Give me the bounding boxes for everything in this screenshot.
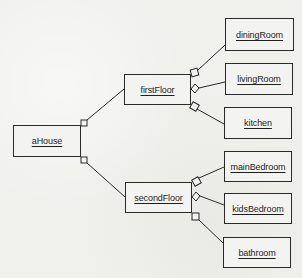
link-firstfloor-livingroom (191, 82, 225, 93)
square-marker-icon (190, 68, 199, 77)
diagram-canvas: aHouse firstFloor secondFloor diningRoom… (0, 0, 302, 278)
node-kidsbedroom[interactable]: kidsBedroom (224, 193, 292, 224)
node-label: livingRoom (237, 74, 281, 84)
square-marker-icon (81, 120, 87, 126)
node-label: kidsBedroom (232, 204, 283, 214)
node-label: firstFloor (140, 85, 174, 95)
node-label: aHouse (32, 136, 62, 146)
node-bathroom[interactable]: bathroom (223, 237, 291, 268)
node-label: mainBedroom (231, 162, 286, 172)
node-label: diningRoom (236, 30, 283, 40)
square-marker-icon (192, 213, 199, 220)
node-label: kitchen (244, 118, 272, 128)
node-label: bathroom (238, 248, 275, 258)
node-livingroom[interactable]: livingRoom (225, 63, 293, 95)
square-marker-icon (81, 157, 87, 163)
link-ahouse-secondfloor (81, 157, 125, 197)
node-secondfloor[interactable]: secondFloor (125, 182, 192, 213)
link-firstfloor-kitchen (190, 102, 224, 124)
link-secondfloor-bathroom (192, 213, 223, 243)
node-kitchen[interactable]: kitchen (224, 107, 292, 139)
node-label: secondFloor (134, 193, 182, 203)
diamond-marker-icon (191, 84, 199, 93)
node-firstfloor[interactable]: firstFloor (124, 74, 191, 105)
diamond-marker-icon (192, 192, 200, 201)
node-diningroom[interactable]: diningRoom (225, 18, 294, 51)
link-secondfloor-mainbedroom (192, 167, 224, 186)
link-secondfloor-kidsbedroom (192, 192, 224, 205)
link-ahouse-firstfloor (81, 89, 124, 126)
link-firstfloor-diningroom (190, 45, 225, 77)
node-ahouse[interactable]: aHouse (13, 125, 81, 157)
node-mainbedroom[interactable]: mainBedroom (224, 151, 292, 182)
